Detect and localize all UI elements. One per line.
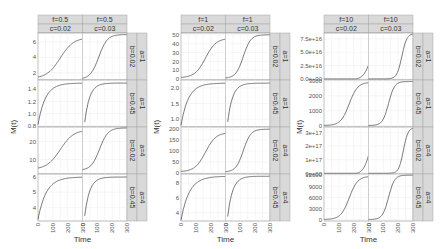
y-tick-label: 9000 <box>309 184 323 190</box>
y-tick-label: 0 <box>176 76 180 82</box>
strip-a-label: a=4 <box>282 192 289 204</box>
y-tick-label: 50 <box>172 159 179 165</box>
strip-f-label: f=0.5 <box>97 16 113 23</box>
strip-c-label: c=0.02 <box>50 25 71 32</box>
x-tick-label: 200 <box>252 222 258 233</box>
y-tick-label: 5 <box>33 189 37 195</box>
strip-b-label: b=0.02 <box>272 46 279 68</box>
y-tick-label: 2.5e+16 <box>300 63 323 69</box>
y-tick-label: 1.5 <box>171 101 180 107</box>
y-tick-label: 40 <box>172 41 179 47</box>
y-tick-label: 20 <box>172 59 179 65</box>
x-tick-label: 100 <box>336 222 342 233</box>
x-tick-label: 0 <box>366 222 372 226</box>
y-tick-label: 10 <box>172 67 179 73</box>
x-tick-label: 0 <box>178 222 184 226</box>
strip-f-label: f=10 <box>384 16 398 23</box>
y-tick-label: 4 <box>33 54 37 60</box>
y-tick-label: 3e+17 <box>305 130 323 136</box>
y-tick-label: 5.0e+16 <box>300 49 323 55</box>
strip-a-label: a=1 <box>282 51 289 63</box>
y-axis-label: M(t) <box>152 120 161 135</box>
y-tick-label: 4 <box>176 210 180 216</box>
x-tick-label: 100 <box>193 222 199 233</box>
faceted-line-chart: f=0.5c=0.02f=0.5c=0.03246b=0.02a=10.81.0… <box>0 0 446 249</box>
strip-a-label: a=1 <box>139 98 146 110</box>
y-tick-label: 1.0 <box>28 111 37 117</box>
y-tick-label: 10 <box>29 157 36 163</box>
facet-block-3: f=10c=0.02f=10c=0.030.0e+002.5e+165.0e+1… <box>295 15 433 244</box>
strip-c-label: c=0.02 <box>193 25 214 32</box>
strip-b-label: b=0.02 <box>415 46 422 68</box>
strip-a-label: a=4 <box>282 145 289 157</box>
y-tick-label: 0 <box>319 123 323 129</box>
strip-a-label: a=1 <box>139 51 146 63</box>
x-tick-label: 100 <box>50 222 56 233</box>
y-tick-label: 2.0 <box>171 85 180 91</box>
y-tick-label: 0 <box>319 217 323 223</box>
strip-b-label: b=0.45 <box>415 93 422 115</box>
y-tick-label: 1e+17 <box>305 157 323 163</box>
y-tick-label: 2000 <box>309 93 323 99</box>
y-tick-label: 0.8 <box>28 123 37 129</box>
strip-b-label: b=0.45 <box>415 187 422 209</box>
y-tick-label: 1.2 <box>28 99 37 105</box>
strip-a-label: a=4 <box>425 192 432 204</box>
strip-b-label: b=0.45 <box>272 187 279 209</box>
x-tick-label: 100 <box>94 222 100 233</box>
y-tick-label: 150 <box>169 137 180 143</box>
strip-a-label: a=1 <box>282 98 289 110</box>
y-tick-label: 20 <box>29 139 36 145</box>
y-tick-label: 6 <box>33 174 37 180</box>
x-tick-label: 200 <box>395 222 401 233</box>
y-tick-label: 6 <box>33 39 37 45</box>
y-tick-label: 30 <box>172 50 179 56</box>
x-tick-label: 100 <box>237 222 243 233</box>
strip-c-label: c=0.03 <box>94 25 115 32</box>
x-axis-label: Time <box>360 235 378 244</box>
x-tick-label: 300 <box>267 222 273 233</box>
figure: f=0.5c=0.02f=0.5c=0.03246b=0.02a=10.81.0… <box>0 0 446 249</box>
y-axis-label: M(t) <box>295 120 304 135</box>
y-tick-label: 6000 <box>309 195 323 201</box>
strip-b-label: b=0.02 <box>129 46 136 68</box>
x-tick-label: 100 <box>380 222 386 233</box>
y-tick-label: 100 <box>169 148 180 154</box>
facet-block-1: f=0.5c=0.02f=0.5c=0.03246b=0.02a=10.81.0… <box>9 15 147 244</box>
x-axis-label: Time <box>217 235 235 244</box>
y-tick-label: 1000 <box>309 108 323 114</box>
strip-b-label: b=0.45 <box>272 93 279 115</box>
strip-f-label: f=1 <box>198 16 208 23</box>
x-tick-label: 200 <box>208 222 214 233</box>
strip-b-label: b=0.02 <box>129 140 136 162</box>
y-tick-label: 4 <box>33 205 37 211</box>
strip-f-label: f=10 <box>339 16 353 23</box>
y-tick-label: 2 <box>33 70 37 76</box>
x-tick-label: 300 <box>124 222 130 233</box>
y-tick-label: 8 <box>176 180 180 186</box>
x-tick-label: 200 <box>65 222 71 233</box>
strip-b-label: b=0.02 <box>272 140 279 162</box>
y-tick-label: 3000 <box>309 206 323 212</box>
x-tick-label: 0 <box>35 222 41 226</box>
strip-a-label: a=4 <box>139 145 146 157</box>
y-tick-label: 1.4 <box>28 86 37 92</box>
strip-f-label: f=0.5 <box>52 16 68 23</box>
strip-b-label: b=0.45 <box>129 187 136 209</box>
x-tick-label: 0 <box>80 222 86 226</box>
strip-c-label: c=0.03 <box>237 25 258 32</box>
x-tick-label: 0 <box>223 222 229 226</box>
facet-block-2: f=1c=0.02f=1c=0.0301020304050b=0.02a=11.… <box>152 15 290 244</box>
y-tick-label: 12000 <box>305 172 322 178</box>
strip-a-label: a=4 <box>139 192 146 204</box>
strip-c-label: c=0.03 <box>380 25 401 32</box>
strip-a-label: a=1 <box>425 98 432 110</box>
y-tick-label: 7.5e+16 <box>300 36 323 42</box>
strip-b-label: b=0.02 <box>415 140 422 162</box>
y-tick-label: 3000 <box>309 78 323 84</box>
y-tick-label: 1.0 <box>171 116 180 122</box>
y-tick-label: 200 <box>169 126 180 132</box>
strip-a-label: a=1 <box>425 51 432 63</box>
x-axis-label: Time <box>74 235 92 244</box>
strip-a-label: a=4 <box>425 145 432 157</box>
